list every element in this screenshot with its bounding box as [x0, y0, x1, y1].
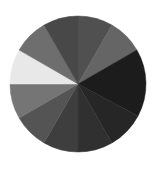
grayscale-pie-wheel [0, 0, 158, 170]
wheel-segments [10, 16, 146, 152]
stage [0, 0, 158, 170]
